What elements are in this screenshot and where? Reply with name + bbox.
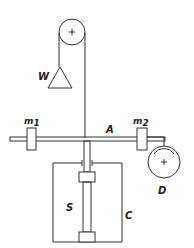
label-a: A [105, 124, 114, 135]
label-d: D [158, 185, 166, 196]
weight-triangle [48, 67, 72, 88]
label-s: S [66, 202, 73, 213]
pulley [59, 19, 85, 45]
mass-m1-block [27, 128, 36, 150]
apparatus-diagram: W m1 m2 A D S C [0, 0, 194, 248]
label-w: W [38, 71, 50, 82]
spring-upper-block [79, 172, 95, 182]
spring-lower-block [79, 232, 95, 242]
shaft [84, 141, 90, 172]
mass-m2-block [137, 128, 147, 150]
label-c: C [125, 210, 133, 221]
label-m2: m2 [133, 116, 149, 128]
spring-s [83, 182, 91, 232]
label-m1: m1 [24, 116, 40, 128]
drum-d [148, 146, 180, 178]
